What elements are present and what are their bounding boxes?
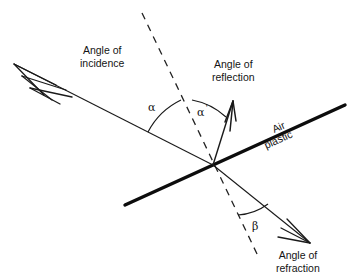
reflected-ray-arrowhead	[225, 101, 236, 131]
label-angle-of-refraction-line1: Angle of	[276, 249, 320, 262]
interface-line	[125, 105, 345, 205]
label-angle-of-incidence-line1: Angle of	[80, 44, 124, 57]
label-angle-of-refraction: Angle of refraction	[276, 249, 320, 274]
optics-diagram: Angle of incidence Angle of reflection A…	[0, 0, 358, 280]
label-alpha-prime-symbol: α'	[197, 103, 208, 119]
label-angle-of-incidence: Angle of incidence	[80, 44, 124, 69]
normal-line-dashed	[142, 13, 258, 256]
label-angle-of-incidence-line2: incidence	[80, 57, 124, 70]
label-alpha-prime-mark: '	[204, 103, 207, 113]
diagram-canvas	[0, 0, 358, 280]
refracted-ray-line	[213, 165, 310, 243]
label-angle-of-reflection: Angle of reflection	[212, 58, 255, 83]
label-angle-of-reflection-line2: reflection	[212, 71, 255, 84]
incident-ray-arrowhead	[14, 64, 72, 104]
label-beta-symbol: β	[252, 220, 258, 233]
label-angle-of-refraction-line2: refraction	[276, 262, 320, 275]
label-alpha-symbol: α	[148, 101, 155, 114]
label-angle-of-reflection-line1: Angle of	[212, 58, 255, 71]
